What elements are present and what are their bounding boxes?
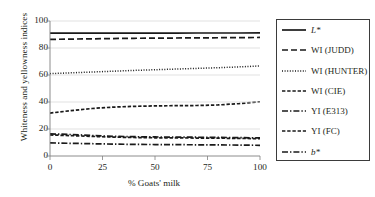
x-axis-tick-labels: 0255075100 — [0, 162, 375, 176]
legend-label: YI (FC) — [311, 126, 340, 136]
series-lines — [50, 21, 260, 156]
series-line-wi-judd — [50, 37, 260, 39]
legend-label: YI (E313) — [311, 106, 348, 116]
legend-line-sample — [281, 146, 307, 158]
legend-line-sample — [281, 125, 307, 137]
legend-label: L* — [311, 25, 321, 35]
legend-item-wi-hunter[interactable]: WI (HUNTER) — [277, 61, 369, 81]
y-tick-100: 100 — [22, 16, 48, 25]
x-tick-50: 50 — [140, 162, 170, 172]
series-line-wi-hunter — [50, 66, 260, 74]
legend-label: WI (HUNTER) — [311, 66, 367, 76]
y-tick-80: 80 — [22, 43, 48, 52]
legend-item-wi-judd[interactable]: WI (JUDD) — [277, 40, 369, 60]
x-tick-100: 100 — [245, 162, 275, 172]
legend-item-yi-e313[interactable]: YI (E313) — [277, 101, 369, 121]
legend-item-yi-fc[interactable]: YI (FC) — [277, 121, 369, 141]
series-line-wi-cie — [50, 102, 260, 113]
y-tick-60: 60 — [22, 70, 48, 79]
x-tick-75: 75 — [193, 162, 223, 172]
chart-figure: Whiteness and yellowness indices % Goats… — [0, 0, 375, 197]
legend-line-sample — [281, 44, 307, 56]
y-tick-0: 0 — [22, 151, 48, 160]
y-tick-20: 20 — [22, 124, 48, 133]
legend-item-b[interactable]: b* — [277, 142, 369, 162]
series-line-b — [50, 143, 260, 145]
x-tick-25: 25 — [88, 162, 118, 172]
legend-line-sample — [281, 24, 307, 36]
legend-line-sample — [281, 85, 307, 97]
x-axis-label: % Goats' milk — [48, 178, 260, 188]
plot-area — [50, 21, 260, 156]
legend-label: b* — [311, 147, 320, 157]
x-tick-0: 0 — [35, 162, 65, 172]
legend-label: WI (CIE) — [311, 86, 345, 96]
chart-legend: L*WI (JUDD)WI (HUNTER)WI (CIE)YI (E313)Y… — [276, 19, 370, 161]
legend-item-l[interactable]: L* — [277, 20, 369, 40]
y-tick-40: 40 — [22, 97, 48, 106]
legend-line-sample — [281, 65, 307, 77]
legend-label: WI (JUDD) — [311, 45, 354, 55]
legend-item-wi-cie[interactable]: WI (CIE) — [277, 81, 369, 101]
legend-line-sample — [281, 105, 307, 117]
